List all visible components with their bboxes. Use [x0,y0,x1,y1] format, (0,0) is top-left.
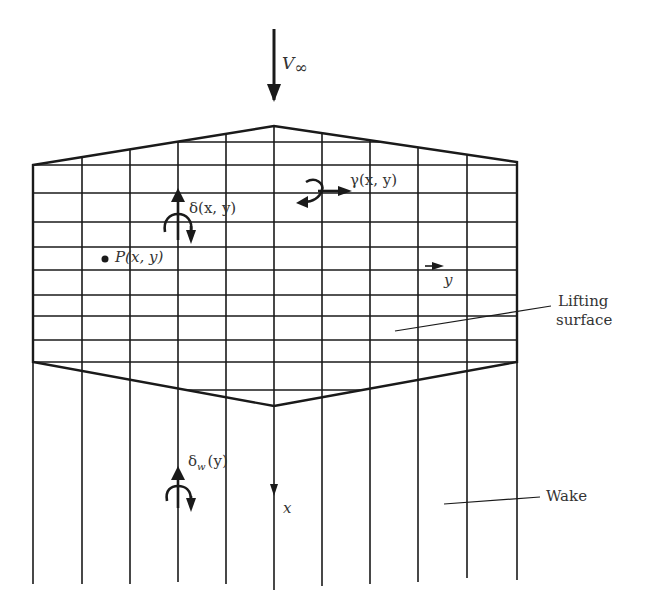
x-axis-arrow [270,484,278,496]
y-axis-arrow [425,262,444,270]
doublet-label: δ(x, y) [189,199,236,217]
x-axis-label: x [283,499,292,517]
surface-grid [20,100,530,420]
vortex-icon [296,180,352,208]
lifting-surface-outline [33,126,517,406]
wake-label: Wake [546,487,587,505]
y-axis-label: y [443,271,453,289]
point-p-marker [102,256,109,263]
wake-doublet-icon [167,466,196,512]
point-p-label: P(x, y) [114,248,163,266]
wake-lines [33,362,517,590]
freestream-arrow [267,29,281,102]
wake-leader [444,497,540,504]
wake-doublet-label: wδw(y) [188,452,228,472]
vortex-label: γ(x, y) [350,171,397,189]
lifting-surface-label: Lifting surface [556,292,613,329]
freestream-label: V∞ [282,53,308,77]
lifting-surface-diagram: V∞ [0,0,647,598]
